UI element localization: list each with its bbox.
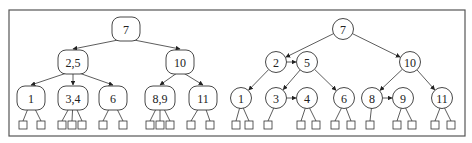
node-label: 3 <box>273 92 279 106</box>
tree-node-r1: 1 <box>231 88 254 130</box>
null-leaf <box>393 121 401 129</box>
tree-node-l34: 3,4 <box>58 86 88 129</box>
tree-node-r8: 8 <box>362 88 383 130</box>
null-leaf <box>331 121 339 129</box>
leaf-edge <box>435 108 440 122</box>
null-leaf <box>431 121 439 129</box>
null-leaf <box>68 121 76 129</box>
tree-node-l10: 10 <box>166 50 194 74</box>
node-label: 9 <box>400 92 406 106</box>
tree-edge <box>31 73 67 85</box>
node-label: 6 <box>110 92 116 106</box>
null-leaf <box>19 121 27 129</box>
node-label: 1 <box>238 92 244 106</box>
null-leaf <box>297 121 305 129</box>
tree-node-l1: 1 <box>17 86 45 129</box>
node-label: 5 <box>304 56 310 70</box>
node-label: 3,4 <box>66 92 81 106</box>
node-label: 10 <box>174 56 186 70</box>
tree-edge <box>417 70 435 90</box>
tree-node-l11: 11 <box>187 86 217 129</box>
node-label: 11 <box>436 92 448 106</box>
tree-node-l89: 8,9 <box>145 86 175 129</box>
leaf-edge <box>236 108 240 122</box>
tree-node-r2: 2 <box>266 52 287 73</box>
leaf-edge <box>243 108 249 122</box>
node-label: 11 <box>197 92 209 106</box>
null-leaf <box>58 121 66 129</box>
null-leaf <box>408 121 416 129</box>
null-leaf <box>347 121 355 129</box>
null-leaf <box>187 121 195 129</box>
node-label: 10 <box>404 56 416 70</box>
null-leaf <box>264 121 272 129</box>
tree-edge <box>79 73 113 85</box>
node-label: 7 <box>340 23 346 37</box>
tree-node-r9: 9 <box>393 88 417 130</box>
node-label: 4 <box>304 92 310 106</box>
tree-node-r6: 6 <box>331 88 355 130</box>
leaf-edge <box>301 108 306 122</box>
null-leaf <box>245 121 253 129</box>
node-label: 2,5 <box>66 56 81 70</box>
null-leaf <box>37 121 45 129</box>
tree-edge <box>134 40 180 49</box>
null-leaf <box>166 121 174 129</box>
tree-node-r11: 11 <box>431 88 455 130</box>
node-label: 2 <box>273 56 279 70</box>
null-leaf <box>206 121 214 129</box>
leaf-edge <box>268 108 274 122</box>
leaf-edge <box>397 108 402 122</box>
tree-edge <box>183 73 203 85</box>
leaf-edge <box>444 108 451 122</box>
leaf-edge <box>335 108 342 122</box>
null-leaf <box>119 121 127 129</box>
node-label: 8 <box>369 92 375 106</box>
node-label: 1 <box>28 92 34 106</box>
leaf-edge <box>405 108 412 122</box>
tree-node-l6: 6 <box>99 86 127 129</box>
tree-node-r4: 4 <box>297 88 321 130</box>
tree-edge <box>380 69 402 90</box>
null-leaf <box>366 121 374 129</box>
null-leaf <box>232 121 240 129</box>
null-leaf <box>146 121 154 129</box>
two-three-four-tree: 72,51013,468,911 <box>17 17 217 129</box>
tree-edge <box>249 70 269 91</box>
tree-edge <box>315 69 337 90</box>
leaf-edge <box>370 108 372 122</box>
tree-node-l7: 7 <box>112 17 140 41</box>
tree-edge <box>160 73 177 85</box>
tree-node-r10: 10 <box>400 52 421 73</box>
binary-search-tree: 7251013468911 <box>231 19 456 130</box>
null-leaf <box>156 121 164 129</box>
null-leaf <box>99 121 107 129</box>
tree-edge <box>283 70 300 90</box>
null-leaf <box>312 121 320 129</box>
tree-node-l25: 2,5 <box>58 50 88 74</box>
tree-edge <box>352 34 400 58</box>
node-label: 6 <box>341 92 347 106</box>
tree-edge <box>73 40 118 49</box>
leaf-edge <box>346 108 351 122</box>
tree-node-r7: 7 <box>333 19 354 40</box>
tree-diagram: 72,51013,468,911 7251013468911 <box>0 0 472 143</box>
tree-node-r3: 3 <box>264 88 287 130</box>
node-label: 7 <box>123 23 129 37</box>
null-leaf <box>78 121 86 129</box>
tree-node-r5: 5 <box>297 52 318 73</box>
leaf-edge <box>309 108 316 122</box>
node-label: 8,9 <box>153 92 168 106</box>
null-leaf <box>447 121 455 129</box>
